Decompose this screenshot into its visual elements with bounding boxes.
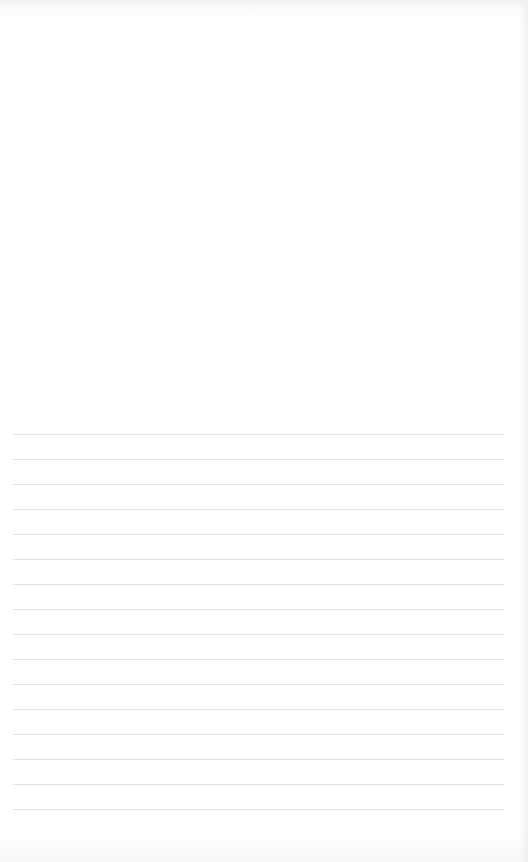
ruled-line bbox=[13, 459, 504, 460]
ruled-line bbox=[13, 759, 504, 760]
ruled-line bbox=[13, 659, 504, 660]
ruled-line bbox=[13, 484, 504, 485]
ruled-line bbox=[13, 509, 504, 510]
ruled-line bbox=[13, 709, 504, 710]
ruled-line bbox=[13, 684, 504, 685]
ruled-line bbox=[13, 434, 504, 435]
paper-right-edge bbox=[520, 0, 528, 862]
ruled-line bbox=[13, 734, 504, 735]
ruled-line bbox=[13, 584, 504, 585]
ruled-line bbox=[13, 534, 504, 535]
notepaper bbox=[0, 0, 528, 862]
ruled-line bbox=[13, 559, 504, 560]
ruled-line bbox=[13, 634, 504, 635]
ruled-area bbox=[13, 0, 504, 862]
ruled-line bbox=[13, 784, 504, 785]
ruled-line bbox=[13, 609, 504, 610]
ruled-line bbox=[13, 809, 504, 810]
